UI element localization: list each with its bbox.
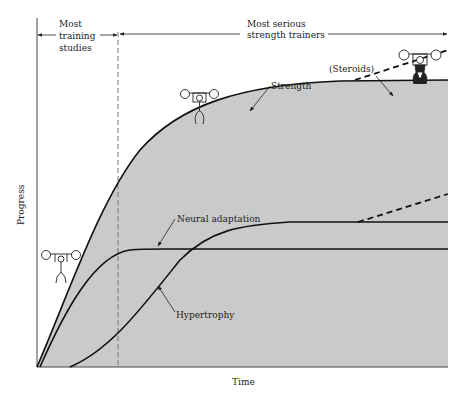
label-most-training-studies-1: Most	[59, 19, 82, 29]
label-steroids: (Steroids)	[329, 64, 374, 74]
y-axis-label: Progress	[16, 184, 26, 225]
label-serious-trainers-2: strength trainers	[247, 30, 325, 40]
label-neural-adaptation: Neural adaptation	[177, 214, 261, 224]
label-strength: Strength	[271, 81, 312, 91]
label-most-training-studies-2: training	[59, 31, 96, 41]
x-axis-label: Time	[232, 377, 255, 387]
muscular-lifter-icon	[399, 50, 441, 84]
chart: Most training studies Most serious stren…	[0, 0, 467, 400]
label-hypertrophy: Hypertrophy	[176, 310, 235, 320]
label-most-training-studies-3: studies	[59, 43, 92, 53]
label-serious-trainers-1: Most serious	[247, 19, 306, 29]
